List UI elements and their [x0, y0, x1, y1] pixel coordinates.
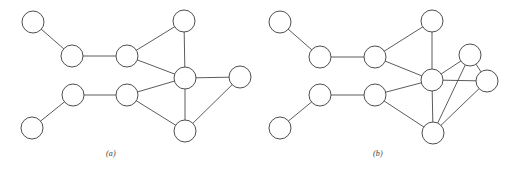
- graph-node: [476, 70, 498, 92]
- graph-node: [364, 46, 386, 68]
- graph-diagram-b: [0, 0, 522, 173]
- graph-edge: [288, 29, 311, 50]
- node-group: [269, 10, 498, 144]
- graph-edge: [288, 102, 311, 121]
- graph-node: [269, 117, 291, 139]
- graph-node: [421, 69, 443, 91]
- graph-panel-b: (b): [0, 0, 522, 173]
- graph-edge: [385, 61, 422, 76]
- panel-caption-b: (b): [373, 149, 383, 158]
- graph-node: [309, 84, 331, 106]
- edge-group: [288, 27, 481, 127]
- graph-edge: [476, 64, 481, 72]
- graph-node: [269, 11, 291, 33]
- graph-node: [422, 122, 444, 144]
- graph-node: [364, 84, 386, 106]
- graph-edge: [384, 27, 422, 51]
- figure-root: (a) (b): [0, 0, 522, 173]
- graph-node: [309, 46, 331, 68]
- graph-edge: [432, 91, 433, 122]
- graph-edge: [441, 61, 461, 74]
- graph-edge: [443, 80, 476, 81]
- graph-edge: [386, 83, 422, 92]
- graph-node: [421, 10, 443, 32]
- graph-edge: [441, 89, 479, 126]
- graph-node: [459, 44, 481, 66]
- graph-edge: [384, 101, 424, 127]
